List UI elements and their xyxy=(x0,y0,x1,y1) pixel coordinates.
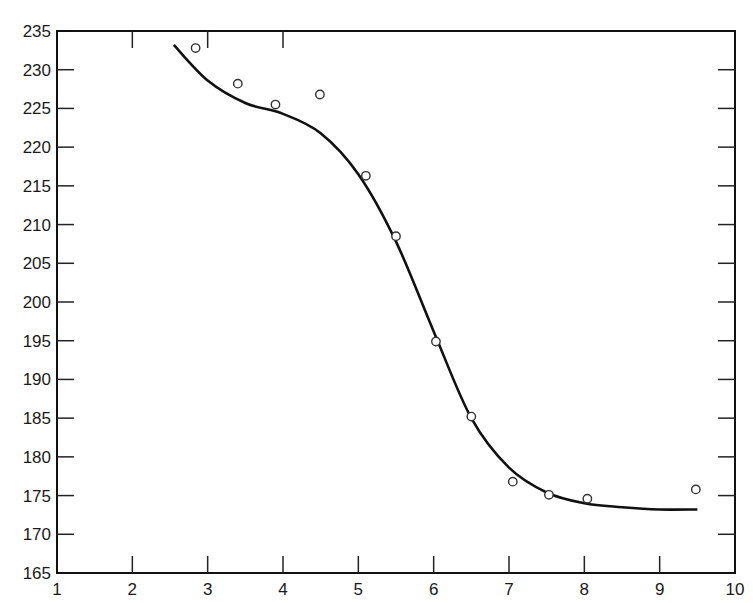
x-tick-label: 5 xyxy=(354,580,363,599)
y-tick-label: 175 xyxy=(23,487,51,506)
y-axis: 1651701751801851901952002052102152202252… xyxy=(23,22,735,583)
y-tick-label: 190 xyxy=(23,370,51,389)
x-tick-label: 4 xyxy=(278,580,287,599)
plot-border xyxy=(57,31,735,573)
x-tick-label: 7 xyxy=(504,580,513,599)
y-tick-label: 185 xyxy=(23,409,51,428)
x-axis: 12345678910 xyxy=(52,31,744,599)
data-point xyxy=(316,90,324,98)
y-tick-label: 225 xyxy=(23,99,51,118)
x-tick-label: 10 xyxy=(726,580,745,599)
x-tick-label: 2 xyxy=(128,580,137,599)
x-tick-label: 3 xyxy=(203,580,212,599)
y-tick-label: 170 xyxy=(23,525,51,544)
data-point xyxy=(191,44,199,52)
data-points xyxy=(191,44,700,503)
y-tick-label: 165 xyxy=(23,564,51,583)
data-point xyxy=(509,477,517,485)
y-tick-label: 200 xyxy=(23,293,51,312)
data-point xyxy=(692,485,700,493)
data-point xyxy=(234,79,242,87)
data-point xyxy=(467,412,475,420)
data-point xyxy=(583,494,591,502)
fitted-curve xyxy=(174,45,698,510)
y-tick-label: 210 xyxy=(23,216,51,235)
y-tick-label: 220 xyxy=(23,138,51,157)
x-tick-label: 9 xyxy=(655,580,664,599)
y-tick-label: 205 xyxy=(23,254,51,273)
y-tick-label: 230 xyxy=(23,61,51,80)
y-tick-label: 235 xyxy=(23,22,51,41)
data-point xyxy=(271,100,279,108)
x-tick-label: 8 xyxy=(580,580,589,599)
data-point xyxy=(362,172,370,180)
y-tick-label: 195 xyxy=(23,332,51,351)
y-tick-label: 215 xyxy=(23,177,51,196)
data-point xyxy=(545,491,553,499)
y-tick-label: 180 xyxy=(23,448,51,467)
plot-frame xyxy=(57,31,735,573)
x-tick-label: 6 xyxy=(429,580,438,599)
chart: 1651701751801851901952002052102152202252… xyxy=(0,0,753,603)
x-tick-label: 1 xyxy=(52,580,61,599)
data-point xyxy=(392,232,400,240)
data-point xyxy=(432,337,440,345)
